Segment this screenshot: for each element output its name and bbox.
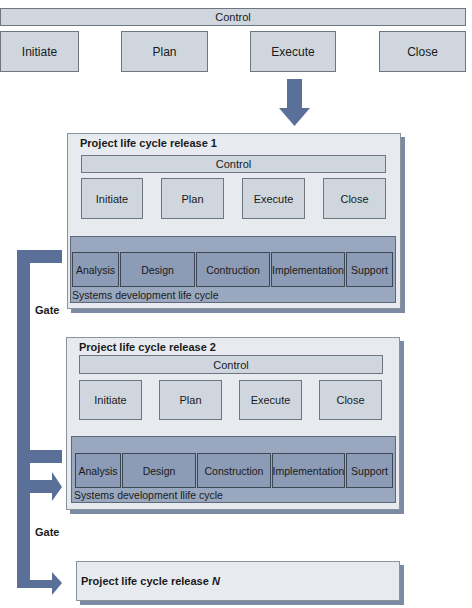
stage-label: Contruction [206,264,260,276]
sdlc-stage-construction: Construction [197,453,271,488]
phase-label: Execute [251,394,291,406]
top-phase-initiate: Initiate [0,31,79,72]
release-1-sdlc-label: Systems development life cycle [72,289,218,301]
release-n-title-prefix: Project life cycle release [81,575,212,587]
release-n-title: Project life cycle release N [81,575,220,587]
phase-label: Close [407,45,438,59]
phase-label: Initiate [22,45,57,59]
sdlc-stage-construction: Contruction [196,252,270,287]
stage-label: Support [351,465,388,477]
release-2-phase-plan: Plan [159,380,222,420]
sdlc-stage-implementation: Implementation [272,453,345,488]
release-1-phase-initiate: Initiate [81,178,143,219]
top-phase-close: Close [379,31,466,72]
sdlc-stage-implementation: Implementation [271,252,345,287]
control-label: Control [215,11,250,23]
control-label: Control [216,158,251,170]
phase-label: Close [340,193,368,205]
release-1-control-bar: Control [81,155,386,173]
sdlc-stage-support: Support [346,453,393,488]
down-arrow-icon [279,79,310,126]
phase-label: Execute [271,45,314,59]
stage-label: Design [143,465,176,477]
release-n-panel: Project life cycle release N [76,561,400,601]
phase-label: Plan [179,394,201,406]
gate-label-2: Gate [35,526,59,538]
release-1-title: Project life cycle release 1 [80,137,217,149]
release-1-phase-execute: Execute [242,178,305,219]
release-2-phase-execute: Execute [239,380,302,420]
release-2-sdlc-label: Systems development llife cycle [74,489,223,501]
gate-label-1: Gate [35,304,59,316]
stage-label: Support [351,264,388,276]
phase-label: Close [336,394,364,406]
stage-label: Design [141,264,174,276]
phase-label: Initiate [96,193,128,205]
control-label: Control [213,359,248,371]
sdlc-stage-design: Design [120,252,195,287]
sdlc-stage-analysis: Analysis [75,453,121,488]
sdlc-stage-design: Design [122,453,196,488]
phase-label: Plan [181,193,203,205]
phase-label: Plan [152,45,176,59]
top-phase-execute: Execute [250,31,336,72]
release-n-variable: N [212,575,220,587]
stage-label: Implementation [272,264,344,276]
release-1-phase-plan: Plan [161,178,224,219]
stage-label: Analysis [78,465,117,477]
stage-label: Implementation [273,465,345,477]
release-2-title: Project life cycle release 2 [79,341,216,353]
sdlc-stage-analysis: Analysis [72,252,119,287]
release-1-phase-close: Close [323,178,386,219]
stage-label: Analysis [76,264,115,276]
sdlc-stage-support: Support [346,252,393,287]
phase-label: Initiate [94,394,126,406]
release-2-control-bar: Control [79,355,383,374]
phase-label: Execute [254,193,294,205]
release-2-phase-close: Close [319,380,382,420]
bracket-arrow-icon [17,450,62,595]
stage-label: Construction [205,465,264,477]
top-control-bar: Control [0,8,466,26]
top-phase-plan: Plan [121,31,208,72]
release-2-phase-initiate: Initiate [79,380,142,420]
